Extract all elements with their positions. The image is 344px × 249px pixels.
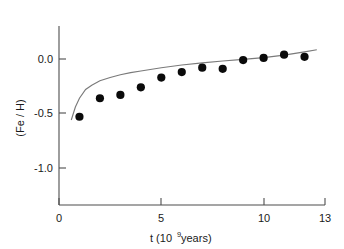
data-point bbox=[280, 51, 288, 59]
x-tick-label-1: 5 bbox=[158, 212, 164, 224]
data-point bbox=[198, 64, 206, 72]
y-tick-label-2: -1.0 bbox=[34, 162, 53, 174]
x-tick-label-3: 13 bbox=[319, 212, 331, 224]
x-axis-ticks bbox=[59, 198, 325, 205]
model-curve bbox=[71, 50, 317, 120]
data-point bbox=[96, 94, 104, 102]
data-point bbox=[219, 65, 227, 73]
data-point bbox=[239, 56, 247, 64]
x-tick-label-0: 0 bbox=[56, 212, 62, 224]
data-point bbox=[116, 91, 124, 99]
data-point bbox=[75, 113, 83, 121]
data-point bbox=[178, 68, 186, 76]
data-point bbox=[300, 53, 308, 61]
x-axis-title-tail: years) bbox=[181, 232, 212, 244]
x-axis-title: t (10 9 years) bbox=[150, 230, 212, 244]
data-point bbox=[157, 73, 165, 81]
x-axis-title-base: t (10 bbox=[150, 232, 172, 244]
chart-figure: 0.0 -0.5 -1.0 0 5 10 13 t (10 9 years) (… bbox=[0, 0, 344, 249]
y-tick-label-1: -0.5 bbox=[34, 107, 53, 119]
y-axis-ticks bbox=[59, 59, 66, 168]
y-tick-label-0: 0.0 bbox=[38, 53, 53, 65]
x-tick-label-2: 10 bbox=[258, 212, 270, 224]
data-point-group bbox=[75, 51, 308, 121]
data-point bbox=[260, 54, 268, 62]
data-point bbox=[137, 83, 145, 91]
scatter-plot: 0.0 -0.5 -1.0 0 5 10 13 t (10 9 years) (… bbox=[0, 0, 344, 249]
y-axis-title: (Fe / H) bbox=[14, 99, 26, 136]
